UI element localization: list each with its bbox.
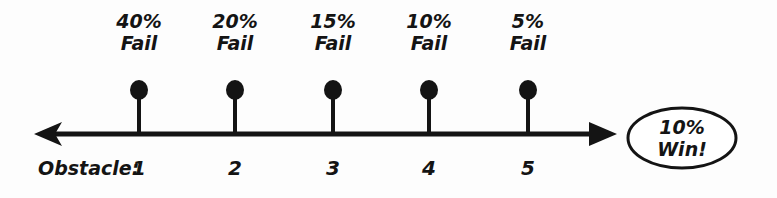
obstacle-percent-4: 10%: [406, 10, 451, 32]
obstacle-number-4: 4: [421, 156, 436, 180]
axis-right-arrowhead-icon: [589, 122, 617, 146]
win-percent-label: 10%: [659, 116, 704, 138]
obstacle-outcome-2: Fail: [217, 32, 254, 54]
obstacle-marker-5[interactable]: 5% Fail 5: [510, 10, 547, 180]
obstacle-percent-1: 40%: [115, 10, 161, 32]
obstacle-percent-3: 15%: [310, 10, 355, 32]
obstacle-percent-5: 5%: [512, 10, 544, 32]
obstacle-number-3: 3: [326, 156, 340, 180]
obstacle-dot-1: [130, 80, 148, 100]
obstacle-marker-2[interactable]: 20% Fail 2: [212, 10, 257, 180]
probability-timeline-diagram: 40% Fail 1 20% Fail 2 15% Fail 3 10% Fai…: [0, 0, 777, 198]
obstacle-outcome-5: Fail: [510, 32, 547, 54]
obstacle-number-2: 2: [228, 156, 242, 180]
win-outcome-label: Win!: [657, 138, 707, 160]
axis-caption-label: Obstacle:: [38, 157, 139, 179]
obstacle-number-5: 5: [521, 156, 535, 180]
obstacle-dot-4: [420, 80, 438, 100]
win-outcome-node[interactable]: 10% Win!: [628, 108, 736, 168]
obstacle-outcome-4: Fail: [411, 32, 448, 54]
obstacle-marker-3[interactable]: 15% Fail 3: [310, 10, 355, 180]
obstacle-marker-4[interactable]: 10% Fail 4: [406, 10, 451, 180]
obstacle-dot-2: [226, 80, 244, 100]
obstacle-dot-3: [324, 80, 342, 100]
obstacle-outcome-1: Fail: [121, 32, 158, 54]
obstacle-outcome-3: Fail: [315, 32, 352, 54]
timeline-svg: 40% Fail 1 20% Fail 2 15% Fail 3 10% Fai…: [0, 0, 777, 198]
obstacle-dot-5: [519, 80, 537, 100]
obstacle-percent-2: 20%: [212, 10, 257, 32]
obstacle-marker-1[interactable]: 40% Fail 1: [115, 10, 161, 180]
